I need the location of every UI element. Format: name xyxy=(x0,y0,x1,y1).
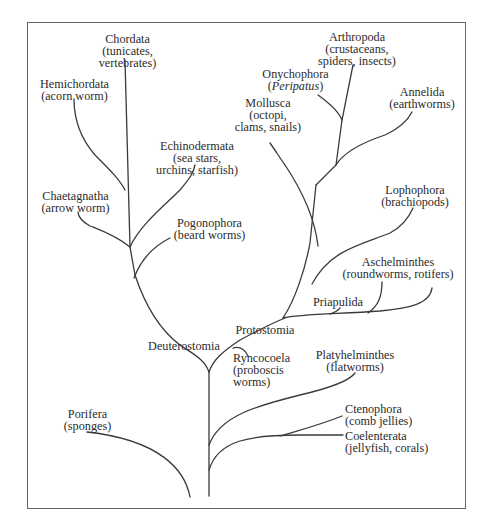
label-echinodermata: Echinodermata (sea stars, urchins, starf… xyxy=(152,140,242,176)
label-pogonophora: Pogonophora (beard worms) xyxy=(172,217,247,241)
branch-coelenterata xyxy=(209,435,343,470)
label-ryncocoela: Ryncocoela (proboscis worms) xyxy=(233,352,308,388)
label-chordata: Chordata (tunicates, vertebrates) xyxy=(95,33,160,69)
label-coelenterata: Coelenterata (jellyfish, corals) xyxy=(345,430,445,454)
branch-ctenophora xyxy=(280,416,342,436)
label-deuterostomia: Deuterostomia xyxy=(144,340,224,352)
branch-annelida xyxy=(336,112,412,165)
label-protostomia: Protostomia xyxy=(230,324,300,336)
branch-aschelminthes-2 xyxy=(368,282,382,313)
label-mollusca: Mollusca (octopi, clams, snails) xyxy=(228,97,308,133)
label-onychophora: Onychophora (Peripatus) xyxy=(258,68,333,92)
label-ctenophora: Ctenophora (comb jellies) xyxy=(345,403,435,427)
branch-onychophora xyxy=(318,95,342,120)
branch-deuterostomia xyxy=(135,275,209,372)
label-porifera: Porifera (sponges) xyxy=(60,408,115,432)
label-aschelminthes: Aschelminthes (roundworms, rotifers) xyxy=(338,256,458,280)
branch-chaetagnatha xyxy=(78,212,130,247)
phylogenetic-tree-diagram: Chordata (tunicates, vertebrates) Hemich… xyxy=(0,0,485,527)
label-lophophora: Lophophora (brachiopods) xyxy=(375,184,455,208)
label-annelida: Annelida (earthworms) xyxy=(382,86,462,110)
branch-porifera xyxy=(87,432,190,497)
branch-hemichordata xyxy=(74,99,125,190)
branch-deuterostome-trunk xyxy=(125,60,135,275)
branch-pogonophora xyxy=(134,238,170,278)
label-platyhelminthes: Platyhelminthes (flatworms) xyxy=(310,349,400,373)
label-chaetagnatha: Chaetagnatha (arrow worm) xyxy=(38,190,113,214)
label-arthropoda: Arthropoda (crustaceans, spiders, insect… xyxy=(312,31,402,67)
label-hemichordata: Hemichordata (acorn worm) xyxy=(37,78,112,102)
label-priapulida: Priapulida xyxy=(308,296,368,308)
